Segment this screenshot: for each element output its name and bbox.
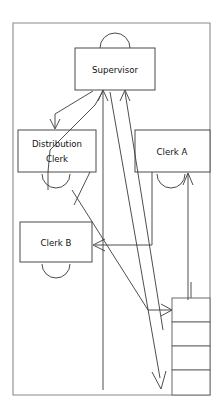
clerk-a-arc-icon — [157, 174, 185, 188]
distribution-clerk-box[interactable] — [18, 130, 96, 172]
node-clerk-b[interactable]: Clerk B — [20, 222, 92, 278]
stack-cell-3[interactable] — [172, 346, 210, 370]
clerk-b-arc-icon — [42, 264, 70, 278]
node-supervisor[interactable]: Supervisor — [75, 33, 155, 90]
connector-distribution-clerk-crossing — [74, 172, 90, 205]
connector-supervisor-to-distribution-clerk — [50, 91, 93, 129]
node-clerk-a[interactable]: Clerk A — [135, 130, 210, 188]
distribution-clerk-arc-icon — [42, 174, 70, 188]
node-distribution-clerk[interactable]: Distribution Clerk — [18, 130, 96, 188]
supervisor-arc-icon — [100, 33, 130, 48]
connector-stack-to-clerk-a — [183, 173, 193, 300]
diagram-root: Supervisor Distribution Clerk Clerk A Cl… — [0, 0, 224, 414]
clerk-a-label: Clerk A — [157, 147, 188, 157]
stack-cell-1[interactable] — [172, 298, 210, 322]
file-stack[interactable] — [172, 282, 210, 395]
connector-clerk-a-to-clerk-b — [93, 172, 152, 251]
stack-cell-4[interactable] — [172, 370, 210, 395]
supervisor-label: Supervisor — [92, 65, 138, 75]
clerk-b-label: Clerk B — [41, 238, 72, 248]
connector-lower-right-to-supervisor — [120, 90, 163, 330]
flow-diagram-canvas: Supervisor Distribution Clerk Clerk A Cl… — [0, 0, 224, 414]
stack-cell-2[interactable] — [172, 322, 210, 346]
